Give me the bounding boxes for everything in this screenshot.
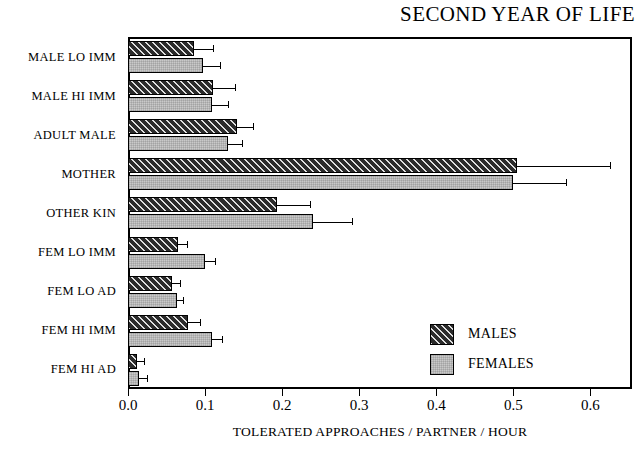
- bar-males: [128, 158, 517, 173]
- legend-swatch-females-icon: [430, 354, 454, 375]
- x-axis-tick-label: 0.3: [350, 397, 369, 414]
- bar-females: [128, 136, 228, 151]
- bar-males: [128, 41, 194, 56]
- x-axis-tick: [436, 389, 437, 396]
- x-axis-tick-label: 0.0: [119, 397, 138, 414]
- error-bar-cap: [215, 258, 216, 265]
- legend-swatch-males-icon: [430, 324, 454, 345]
- bar-females: [128, 371, 139, 386]
- error-bar-line: [213, 88, 235, 89]
- legend-item-females: FEMALES: [430, 352, 534, 376]
- chart-root: SECOND YEAR OF LIFE MALE LO IMMMALE HI I…: [0, 0, 643, 465]
- error-bar-cap: [610, 162, 611, 169]
- x-axis-tick-label: 0.4: [427, 397, 446, 414]
- category-label: MOTHER: [61, 166, 116, 181]
- bars-layer: [128, 37, 632, 389]
- x-axis-tick: [282, 389, 283, 396]
- category-label: MALE LO IMM: [28, 49, 116, 64]
- error-bar-line: [513, 183, 566, 184]
- bar-females: [128, 293, 177, 308]
- error-bar-line: [313, 222, 352, 223]
- error-bar-cap: [144, 358, 145, 365]
- x-axis-tick-label: 0.1: [196, 397, 215, 414]
- legend-item-males: MALES: [430, 322, 534, 346]
- bar-males: [128, 237, 178, 252]
- error-bar-cap: [228, 101, 229, 108]
- error-bar-line: [188, 322, 200, 323]
- error-bar-line: [212, 339, 222, 340]
- error-bar-cap: [235, 84, 236, 91]
- category-label: OTHER KIN: [46, 206, 116, 221]
- x-axis-tick-label: 0.2: [273, 397, 292, 414]
- error-bar-line: [517, 166, 610, 167]
- x-axis-tick: [359, 389, 360, 396]
- legend-label-females: FEMALES: [468, 356, 534, 372]
- bar-males: [128, 197, 277, 212]
- error-bar-line: [205, 261, 215, 262]
- error-bar-cap: [187, 241, 188, 248]
- error-bar-cap: [253, 123, 254, 130]
- chart-legend: MALES FEMALES: [430, 322, 534, 382]
- error-bar-line: [228, 144, 242, 145]
- category-axis-labels: MALE LO IMMMALE HI IMMADULT MALEMOTHEROT…: [0, 37, 124, 389]
- error-bar-cap: [147, 375, 148, 382]
- x-axis-tick: [205, 389, 206, 396]
- x-axis-tick-label: 0.5: [504, 397, 523, 414]
- error-bar-cap: [566, 179, 567, 186]
- x-axis-tick-label: 0.6: [581, 397, 600, 414]
- category-label: FEM HI IMM: [41, 323, 116, 338]
- error-bar-cap: [352, 218, 353, 225]
- error-bar-line: [137, 361, 144, 362]
- x-axis-tick: [590, 389, 591, 396]
- bar-females: [128, 332, 212, 347]
- category-label: MALE HI IMM: [31, 88, 116, 103]
- chart-title: SECOND YEAR OF LIFE: [400, 2, 635, 27]
- bar-males: [128, 80, 213, 95]
- error-bar-cap: [242, 140, 243, 147]
- bar-females: [128, 214, 313, 229]
- x-axis-tick: [513, 389, 514, 396]
- error-bar-line: [212, 105, 228, 106]
- bar-males: [128, 315, 188, 330]
- error-bar-cap: [220, 62, 221, 69]
- error-bar-line: [203, 66, 221, 67]
- error-bar-cap: [222, 336, 223, 343]
- category-label: FEM LO IMM: [38, 245, 116, 260]
- error-bar-line: [172, 283, 180, 284]
- error-bar-line: [178, 244, 187, 245]
- bar-females: [128, 58, 203, 73]
- error-bar-cap: [200, 319, 201, 326]
- bar-females: [128, 254, 205, 269]
- bar-females: [128, 97, 212, 112]
- x-axis-tick: [128, 389, 129, 396]
- bar-males: [128, 354, 137, 369]
- error-bar-line: [194, 49, 212, 50]
- category-label: FEM HI AD: [51, 362, 116, 377]
- error-bar-line: [139, 378, 147, 379]
- bar-females: [128, 175, 513, 190]
- bar-males: [128, 276, 172, 291]
- x-axis: 0.00.10.20.30.40.50.6: [128, 389, 632, 429]
- category-label: FEM LO AD: [47, 284, 116, 299]
- error-bar-line: [277, 205, 310, 206]
- error-bar-cap: [310, 201, 311, 208]
- legend-label-males: MALES: [468, 326, 517, 342]
- x-axis-label: TOLERATED APPROACHES / PARTNER / HOUR: [128, 424, 632, 440]
- category-label: ADULT MALE: [33, 127, 116, 142]
- error-bar-cap: [180, 280, 181, 287]
- error-bar-line: [237, 127, 253, 128]
- error-bar-cap: [213, 45, 214, 52]
- bar-males: [128, 119, 237, 134]
- error-bar-cap: [183, 297, 184, 304]
